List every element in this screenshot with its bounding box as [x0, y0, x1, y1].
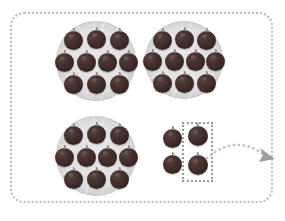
drag-arrow-head [259, 148, 275, 162]
fruit[interactable] [206, 52, 225, 71]
fruit[interactable] [87, 75, 106, 94]
fruit[interactable] [98, 148, 117, 167]
fruit[interactable] [55, 148, 74, 167]
scene-canvas [0, 0, 285, 221]
fruit[interactable] [163, 129, 182, 148]
fruit[interactable] [110, 126, 129, 145]
fruit[interactable] [64, 31, 83, 50]
fruit[interactable] [77, 53, 96, 72]
fruit[interactable] [77, 148, 96, 167]
fruit[interactable] [153, 74, 172, 93]
fruit[interactable] [55, 53, 74, 72]
fruit[interactable] [165, 52, 184, 71]
fruit[interactable] [87, 30, 106, 49]
fruit[interactable] [163, 155, 182, 174]
fruit[interactable] [87, 125, 106, 144]
drag-arrow [205, 132, 285, 178]
fruit[interactable] [186, 52, 205, 71]
fruit[interactable] [153, 31, 172, 50]
fruit[interactable] [175, 74, 194, 93]
fruit[interactable] [64, 75, 83, 94]
drag-arrow-path [207, 145, 263, 158]
fruit[interactable] [87, 170, 106, 189]
plate-top-left[interactable] [56, 21, 136, 101]
plate-bottom-left[interactable] [56, 116, 136, 196]
fruit[interactable] [64, 126, 83, 145]
fruit[interactable] [143, 52, 162, 71]
fruit[interactable] [197, 74, 216, 93]
fruit[interactable] [110, 75, 129, 94]
fruit[interactable] [175, 30, 194, 49]
fruit[interactable] [197, 31, 216, 50]
fruit[interactable] [119, 53, 138, 72]
fruit[interactable] [119, 148, 138, 167]
fruit[interactable] [110, 31, 129, 50]
plate-top-right[interactable] [145, 21, 223, 99]
fruit[interactable] [64, 170, 83, 189]
fruit[interactable] [98, 53, 117, 72]
fruit[interactable] [110, 170, 129, 189]
